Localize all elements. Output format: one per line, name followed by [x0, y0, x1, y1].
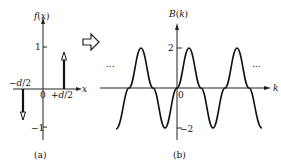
- right-impulse-label: +d/2: [51, 90, 73, 100]
- b-k-label: B(k): [168, 9, 188, 19]
- left-impulse-label: −d/2: [9, 78, 31, 88]
- panel-a: f(x) 1 −1 0 x −d/2 +d/2 (a): [9, 11, 87, 160]
- k-axis-arrowhead-icon: [264, 86, 271, 90]
- caption-b: (b): [173, 150, 186, 160]
- hollow-right-arrow-icon: [83, 34, 99, 50]
- left-ellipsis: ...: [106, 59, 115, 69]
- right-ellipsis: ...: [252, 59, 261, 69]
- x-label: x: [82, 84, 87, 94]
- tick-2-label: 2: [168, 43, 174, 53]
- origin-label: 0: [40, 90, 46, 100]
- y-axis-arrowhead-icon: [175, 23, 179, 30]
- k-label: k: [273, 83, 278, 93]
- panel-b: B(k) 2 −2 0 k ... ... (b): [100, 9, 278, 160]
- diagram-canvas: f(x) 1 −1 0 x −d/2 +d/2 (a) B(k) 2 −2 0 …: [0, 0, 281, 166]
- tick-neg1-label: −1: [31, 123, 44, 133]
- hollow-up-arrow-icon: [62, 52, 67, 60]
- tick-neg2-label: −2: [180, 124, 193, 134]
- f-x-label: f(x): [33, 11, 49, 21]
- caption-a: (a): [34, 150, 46, 160]
- origin-label-b: 0: [178, 90, 184, 100]
- hollow-down-arrow-icon: [21, 112, 26, 120]
- tick-1-label: 1: [35, 42, 41, 52]
